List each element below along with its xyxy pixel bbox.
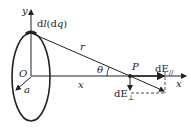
radius-label: a — [24, 85, 30, 95]
y-axis-label: y — [22, 6, 28, 16]
label-sub: ⊥ — [128, 94, 135, 102]
theta-arc — [107, 67, 109, 76]
dE-vector — [130, 76, 164, 91]
dE-perp-label: dE⊥ — [114, 89, 134, 102]
label-sub: // — [169, 69, 174, 77]
dE-parallel-label: dE// — [155, 64, 173, 77]
ring-field-diagram: y dl(dq) r O a θ P x x dE// dE⊥ — [0, 0, 191, 130]
x-axis-label: x — [176, 79, 182, 89]
P-label: P — [132, 62, 139, 72]
label-part: (d — [47, 18, 57, 29]
theta-label: θ — [97, 65, 103, 75]
r-label: r — [80, 42, 85, 52]
label-part: dE — [155, 63, 169, 74]
x-distance-label: x — [78, 80, 84, 90]
label-part: ) — [63, 18, 67, 29]
origin-label: O — [19, 69, 27, 79]
label-part: dE — [114, 88, 128, 99]
r-line — [31, 33, 130, 76]
charge-element-label: dl(dq) — [37, 19, 67, 29]
